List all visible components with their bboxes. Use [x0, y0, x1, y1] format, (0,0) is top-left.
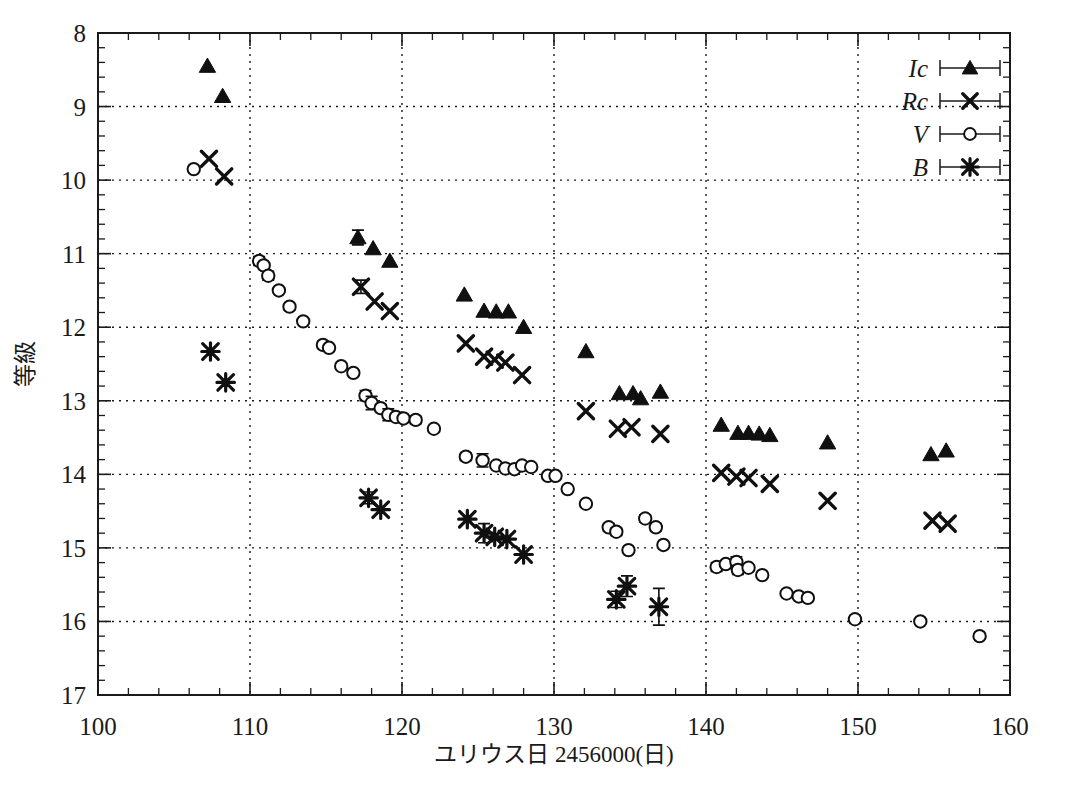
data-point-marker	[973, 630, 985, 642]
marker-asterisk	[459, 510, 476, 527]
data-point-marker	[500, 304, 516, 318]
marker-cross-x	[514, 367, 529, 382]
data-point-marker	[365, 241, 381, 255]
data-point-marker	[639, 512, 651, 524]
data-point-marker	[657, 539, 669, 551]
marker-open-circle	[802, 592, 814, 604]
marker-cross-x	[217, 169, 232, 184]
data-point-marker	[217, 169, 232, 184]
data-point-marker	[819, 435, 835, 449]
marker-asterisk	[618, 577, 635, 594]
marker-open-circle	[262, 270, 274, 282]
data-point-marker	[297, 315, 309, 327]
data-point-marker	[940, 516, 955, 531]
marker-open-circle	[973, 630, 985, 642]
data-point-marker	[273, 284, 285, 296]
marker-cross-x	[741, 470, 756, 485]
series-V	[188, 163, 986, 642]
marker-open-circle	[397, 412, 409, 424]
data-point-marker	[962, 60, 978, 74]
series-Rc	[201, 151, 955, 531]
y-tick-label: 17	[61, 682, 86, 709]
marker-cross-x	[714, 465, 729, 480]
legend-label-B: B	[913, 154, 928, 181]
marker-open-circle	[297, 315, 309, 327]
data-point-marker	[459, 510, 476, 527]
marker-cross-x	[367, 294, 382, 309]
data-point-marker	[382, 303, 397, 318]
marker-filled-triangle	[382, 253, 398, 267]
marker-open-circle	[849, 613, 861, 625]
marker-open-circle	[476, 454, 488, 466]
x-tick-label: 140	[687, 713, 725, 740]
data-point-marker	[802, 592, 814, 604]
marker-filled-triangle	[713, 417, 729, 431]
marker-filled-triangle	[962, 60, 978, 74]
data-point-marker	[610, 526, 622, 538]
marker-filled-triangle	[923, 446, 939, 460]
marker-cross-x	[624, 420, 639, 435]
x-tick-label: 150	[839, 713, 877, 740]
data-point-marker	[347, 367, 359, 379]
data-point-marker	[938, 443, 954, 457]
marker-cross-x	[762, 476, 777, 491]
marker-open-circle	[561, 483, 573, 495]
data-point-marker	[515, 319, 531, 333]
data-point-marker	[756, 569, 768, 581]
marker-open-circle	[347, 367, 359, 379]
x-axis-title: ユリウス日 2456000(日)	[434, 742, 674, 767]
data-point-marker	[409, 414, 421, 426]
data-point-marker	[962, 159, 979, 176]
data-point-marker	[714, 465, 729, 480]
marker-cross-x	[382, 303, 397, 318]
marker-open-circle	[549, 470, 561, 482]
legend: IcRcVB	[901, 55, 1000, 181]
marker-open-circle	[657, 539, 669, 551]
marker-open-circle	[580, 498, 592, 510]
marker-open-circle	[780, 587, 792, 599]
series-B	[202, 343, 668, 625]
data-point-marker	[202, 343, 219, 360]
marker-open-circle	[273, 284, 285, 296]
data-point-marker	[820, 493, 835, 508]
data-point-marker	[653, 426, 668, 441]
marker-filled-triangle	[214, 88, 230, 102]
y-tick-label: 15	[61, 535, 86, 562]
marker-filled-triangle	[365, 241, 381, 255]
data-point-marker	[964, 128, 976, 140]
x-tick-label: 110	[232, 713, 269, 740]
data-point-marker	[608, 591, 625, 608]
data-point-marker	[201, 151, 216, 166]
data-point-marker	[262, 270, 274, 282]
data-point-marker	[460, 450, 472, 462]
data-point-marker	[578, 403, 593, 418]
marker-cross-x	[578, 403, 593, 418]
data-point-marker	[214, 88, 230, 102]
marker-open-circle	[335, 360, 347, 372]
data-point-marker	[367, 294, 382, 309]
data-point-marker	[549, 470, 561, 482]
marker-open-circle	[428, 423, 440, 435]
data-point-marker	[713, 417, 729, 431]
y-tick-label: 13	[61, 388, 86, 415]
data-point-marker	[456, 287, 472, 301]
marker-filled-triangle	[652, 384, 668, 398]
data-point-marker	[199, 58, 215, 72]
data-point-marker	[622, 544, 634, 556]
data-point-marker	[188, 163, 200, 175]
x-tick-label: 100	[79, 713, 117, 740]
data-point-marker	[428, 423, 440, 435]
data-point-marker	[515, 546, 532, 563]
marker-open-circle	[188, 163, 200, 175]
legend-label-V: V	[913, 121, 931, 148]
data-point-marker	[514, 367, 529, 382]
marker-open-circle	[964, 128, 976, 140]
marker-open-circle	[525, 461, 537, 473]
data-point-marker	[498, 530, 515, 547]
data-point-marker	[372, 501, 389, 518]
light-curve-figure: 100110120130140150160 891011121314151617…	[0, 0, 1084, 786]
marker-open-circle	[650, 521, 662, 533]
marker-asterisk	[217, 374, 234, 391]
marker-open-circle	[756, 569, 768, 581]
y-tick-label: 14	[61, 461, 87, 488]
